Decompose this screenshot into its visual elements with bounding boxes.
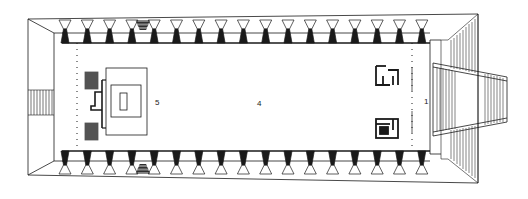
column-capital-icon	[104, 20, 116, 29]
column-capital-icon	[349, 165, 361, 174]
column-capital-icon	[416, 20, 428, 29]
column-capital-icon	[215, 20, 227, 29]
column-base-icon	[418, 29, 426, 43]
column-capital-icon	[148, 165, 160, 174]
column-base-icon	[150, 151, 158, 165]
column-capital-icon	[193, 165, 205, 174]
column-capital-icon	[215, 165, 227, 174]
column-base-icon	[239, 151, 247, 165]
column-base-icon	[106, 29, 114, 43]
column-capital-icon	[237, 165, 249, 174]
column-base-icon	[128, 151, 136, 165]
column-base-icon	[262, 29, 270, 43]
column-base-icon	[373, 29, 381, 43]
column-capital-icon	[371, 165, 383, 174]
floor-plan: 5 4 1	[0, 0, 528, 199]
left-steps	[28, 90, 54, 115]
column-capital-icon	[282, 20, 294, 29]
inner-hall	[77, 40, 441, 154]
label-sanctuary: 5	[155, 99, 159, 107]
column-capital-icon	[260, 165, 272, 174]
column-base-icon	[83, 29, 91, 43]
column-capital-icon	[59, 20, 71, 29]
column-capital-icon	[349, 20, 361, 29]
colonnade-beams	[62, 33, 430, 161]
column-base-icon	[351, 151, 359, 165]
altar-dais	[85, 68, 147, 140]
column-capital-icon	[59, 165, 71, 174]
column-base-icon	[373, 151, 381, 165]
column-base-icon	[128, 29, 136, 43]
column-capital-icon	[81, 165, 93, 174]
column-capital-icon	[304, 165, 316, 174]
right-ramp	[433, 14, 507, 183]
column-base-icon	[284, 29, 292, 43]
column-capital-icon	[171, 20, 183, 29]
column-capital-icon	[193, 20, 205, 29]
label-entrance: 1	[424, 98, 428, 106]
column-base-icon	[284, 151, 292, 165]
column-base-icon	[329, 29, 337, 43]
column-base-icon	[217, 151, 225, 165]
right-screens	[376, 66, 398, 138]
column-capital-icon	[416, 165, 428, 174]
column-capital-icon	[327, 165, 339, 174]
label-hall: 4	[257, 100, 261, 108]
column-capital-icon	[171, 165, 183, 174]
column-base-icon	[351, 29, 359, 43]
column-capital-icon	[304, 20, 316, 29]
column-base-icon	[306, 151, 314, 165]
column-base-icon	[306, 29, 314, 43]
column-capital-icon	[237, 20, 249, 29]
column-capital-icon	[282, 165, 294, 174]
column-capital-icon	[394, 20, 406, 29]
column-base-icon	[173, 151, 181, 165]
column-capital-icon	[260, 20, 272, 29]
column-base-icon	[396, 29, 404, 43]
column-base-icon	[239, 29, 247, 43]
ramp-hatching	[437, 19, 503, 178]
column-base-icon	[195, 29, 203, 43]
column-base-icon	[217, 29, 225, 43]
column-base-icon	[195, 151, 203, 165]
column-base-icon	[262, 151, 270, 165]
column-base-icon	[396, 151, 404, 165]
column-capital-icon	[327, 20, 339, 29]
column-base-icon	[61, 29, 69, 43]
column-base-icon	[418, 151, 426, 165]
column-capital-icon	[148, 20, 160, 29]
column-capital-icon	[81, 20, 93, 29]
column-base-icon	[329, 151, 337, 165]
column-capital-icon	[394, 165, 406, 174]
column-base-icon	[106, 151, 114, 165]
column-base-icon	[83, 151, 91, 165]
column-base-icon	[150, 29, 158, 43]
top-colonnade	[59, 20, 428, 43]
floor-plan-drawing	[0, 0, 528, 199]
column-base-icon	[173, 29, 181, 43]
column-capital-icon	[371, 20, 383, 29]
bottom-colonnade	[59, 151, 428, 174]
column-base-icon	[61, 151, 69, 165]
column-capital-icon	[104, 165, 116, 174]
